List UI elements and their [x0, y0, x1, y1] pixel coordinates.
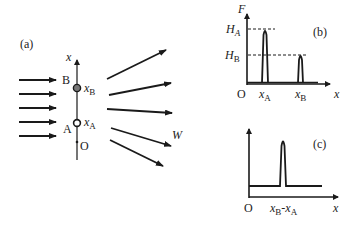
point-A-label: A — [63, 122, 72, 136]
scattered-wave-label: W — [172, 128, 183, 142]
c-origin: O — [244, 201, 253, 215]
panel-a: (a) x B xB A xA O W — [19, 37, 183, 166]
scattered-arrow — [107, 50, 166, 79]
origin-label: O — [80, 139, 89, 153]
c-x-label: x — [332, 201, 339, 215]
b-x-label: x — [333, 87, 340, 101]
panel-b-label: (b) — [313, 25, 327, 39]
axis-label-x: x — [65, 50, 72, 64]
b-tick-xB: xB — [294, 87, 306, 103]
panel-a-label: (a) — [20, 37, 33, 51]
b-level-label-HB: HB — [224, 48, 240, 64]
panel-c: (c) O xB-xA x — [244, 129, 339, 217]
coord-xA: xA — [83, 115, 96, 131]
point-B-label: B — [62, 73, 70, 87]
coord-xB: xB — [83, 81, 95, 97]
b-tick-xA: xA — [258, 87, 271, 103]
scattered-arrow — [107, 109, 172, 113]
b-level-label-HA: HA — [225, 22, 241, 38]
point-A-marker — [74, 120, 81, 127]
scattered-arrow — [109, 83, 171, 95]
point-B-marker — [73, 84, 80, 91]
panel-c-label: (c) — [313, 137, 326, 151]
b-peak-B — [298, 56, 303, 83]
b-origin: O — [237, 87, 246, 101]
c-curve — [249, 142, 322, 187]
scattered-arrows — [107, 50, 172, 166]
scattered-arrow — [110, 140, 163, 166]
figure: (a) x B xB A xA O W — [0, 0, 346, 228]
scattered-arrow — [111, 128, 171, 146]
b-peak-A — [262, 31, 268, 83]
origin-point — [76, 141, 79, 144]
c-tick-xB-minus-xA: xB-xA — [269, 201, 298, 217]
diagram-canvas: (a) x B xB A xA O W — [0, 0, 346, 228]
b-y-label: F — [237, 2, 246, 16]
incident-arrows — [19, 80, 56, 136]
panel-b: F HA HB (b) O xA xB x — [224, 2, 340, 103]
